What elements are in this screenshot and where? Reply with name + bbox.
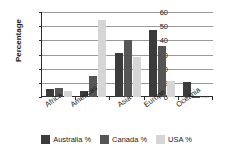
bar[interactable] — [133, 57, 141, 97]
plot-area: 0102030405060 — [41, 12, 213, 97]
legend-item[interactable]: USA % — [156, 135, 192, 144]
y-axis-title: Percentage — [14, 6, 23, 76]
bar[interactable] — [167, 81, 175, 97]
x-label-cell: Europe — [144, 100, 178, 128]
legend-swatch-icon — [156, 135, 165, 144]
bar[interactable] — [98, 20, 106, 97]
x-axis-labels: AfricaAmericasAsiaEuropeOceania — [41, 100, 213, 128]
bar[interactable] — [115, 53, 123, 97]
bar-group — [145, 12, 179, 97]
legend-swatch-icon — [41, 135, 50, 144]
bar-groups — [42, 12, 213, 97]
x-label-cell: Americas — [75, 100, 109, 128]
bar[interactable] — [149, 30, 157, 97]
legend-label: Australia % — [53, 135, 91, 144]
bar-group — [42, 12, 76, 97]
bar[interactable] — [64, 91, 72, 97]
y-tick-mark — [39, 97, 42, 98]
bar[interactable] — [124, 40, 132, 97]
legend: Australia %Canada %USA % — [0, 135, 233, 144]
legend-swatch-icon — [100, 135, 109, 144]
bar-group — [110, 12, 144, 97]
chart-container: Percentage 0102030405060 AfricaAmericasA… — [0, 0, 233, 154]
legend-item[interactable]: Canada % — [100, 135, 147, 144]
legend-label: Canada % — [112, 135, 147, 144]
x-label-cell: Oceania — [179, 100, 213, 128]
legend-item[interactable]: Australia % — [41, 135, 91, 144]
x-label-cell: Asia — [110, 100, 144, 128]
legend-label: USA % — [168, 135, 192, 144]
